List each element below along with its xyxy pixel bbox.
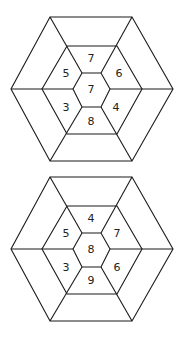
hexagon-figure-1: 7 5 6 7 3 4 8 xyxy=(11,17,173,161)
cell-center: 7 xyxy=(88,83,95,96)
cell-lower-right: 6 xyxy=(114,261,121,274)
cell-top: 7 xyxy=(88,52,95,65)
cell-lower-left: 3 xyxy=(63,101,70,114)
cell-center: 8 xyxy=(88,243,95,256)
hexagon-figure-2: 4 5 7 8 3 6 9 xyxy=(11,177,173,321)
cell-upper-right: 7 xyxy=(114,227,121,240)
cell-bottom: 9 xyxy=(88,274,95,287)
cell-upper-right: 6 xyxy=(116,67,123,80)
cell-upper-left: 5 xyxy=(63,67,70,80)
cell-top: 4 xyxy=(88,212,95,225)
cell-upper-left: 5 xyxy=(63,227,70,240)
puzzle-canvas: 7 5 6 7 3 4 8 4 5 7 8 3 6 9 xyxy=(0,0,187,338)
cell-lower-right: 4 xyxy=(113,101,120,114)
cell-bottom: 8 xyxy=(88,115,95,128)
cell-lower-left: 3 xyxy=(63,261,70,274)
